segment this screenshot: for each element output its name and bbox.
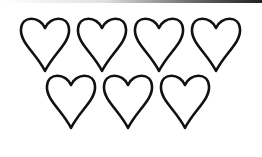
- heart-icon: [18, 13, 72, 73]
- heart-icon: [101, 70, 155, 130]
- heart-icon: [158, 70, 212, 130]
- top-gradient-bar: [0, 0, 262, 3]
- heart-icon: [44, 70, 98, 130]
- heart-icon: [132, 13, 186, 73]
- heart-icon: [189, 13, 243, 73]
- heart-icon: [75, 13, 129, 73]
